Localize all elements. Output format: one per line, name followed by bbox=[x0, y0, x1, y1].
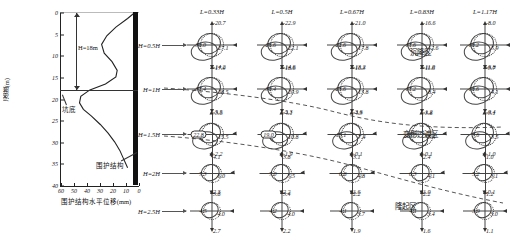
row-header-5: H=2.5H bbox=[124, 208, 160, 215]
value-right: 3.7 bbox=[357, 211, 365, 217]
value-left: 6.8 bbox=[339, 170, 347, 176]
value-top: 2.2 bbox=[283, 189, 291, 195]
tunnel-cell-r5-c1[interactable]: 2.32.74.54.0 bbox=[190, 190, 234, 232]
tunnel-cell-r2-c4[interactable]: -11.0-1.217.28.4 bbox=[397, 65, 447, 113]
value-bottom: 1.9 bbox=[353, 228, 361, 234]
value-left: 22.8 bbox=[191, 130, 207, 138]
column-header-2: L=0.5H bbox=[272, 8, 293, 15]
left-arrow-icon bbox=[300, 209, 304, 213]
value-left: 22.6 bbox=[336, 42, 347, 48]
horizontal-axis bbox=[190, 173, 235, 174]
horizontal-axis bbox=[463, 173, 508, 174]
value-right: 4.1 bbox=[491, 89, 499, 95]
column-header-4: L=0.83H bbox=[410, 8, 434, 15]
tunnel-cell-r2-c3[interactable]: -13.2-3.623.613.8 bbox=[327, 65, 377, 113]
value-right: 3.0 bbox=[490, 211, 498, 217]
y-axis-label: 深度(m) bbox=[2, 78, 12, 101]
horizontal-axis bbox=[460, 89, 510, 90]
value-left: 17.2 bbox=[406, 86, 417, 92]
value-top: -0.1 bbox=[486, 189, 496, 195]
value-bottom: 1.1 bbox=[486, 228, 494, 234]
tunnel-cell-r1-c4[interactable]: -16.6-11.617.612.6 bbox=[397, 21, 447, 69]
left-arrow-icon bbox=[303, 132, 307, 136]
value-right: 5.5 bbox=[287, 173, 295, 179]
value-left: 4.1 bbox=[409, 208, 417, 214]
horizontal-axis bbox=[400, 211, 444, 212]
x-tick-50: 50 bbox=[71, 186, 77, 194]
value-bottom: 2.7 bbox=[213, 228, 221, 234]
value-top: -0.1 bbox=[353, 151, 363, 157]
tunnel-cell-r5-c3[interactable]: 1.61.94.13.7 bbox=[330, 190, 374, 232]
tunnel-cell-r5-c2[interactable]: 2.22.24.24.0 bbox=[260, 190, 304, 232]
row-arrow-4 bbox=[162, 173, 186, 174]
left-arrow-icon bbox=[506, 87, 510, 91]
horizontal-axis bbox=[460, 45, 510, 46]
tunnel-cell-r1-c1[interactable]: -20.7-17.930.027.1 bbox=[187, 21, 237, 69]
value-left: 6.3 bbox=[409, 170, 417, 176]
value-right: 27.1 bbox=[218, 45, 229, 51]
value-right: 4.0 bbox=[287, 211, 295, 217]
value-left: 15.1 bbox=[336, 131, 347, 137]
left-arrow-icon bbox=[373, 132, 377, 136]
tunnel-cell-r2-c2[interactable]: -14.6-5.330.420.9 bbox=[257, 65, 307, 113]
left-arrow-icon bbox=[303, 43, 307, 47]
value-right: 3.5 bbox=[491, 134, 499, 140]
value-left: 4.5 bbox=[199, 208, 207, 214]
left-arrow-icon bbox=[443, 87, 447, 91]
horizontal-axis bbox=[461, 134, 510, 135]
tunnel-deformation-grid: L=0.33H L=0.5H L=0.67H L=0.83H L=1.17H H… bbox=[160, 0, 503, 244]
value-left: 3.9 bbox=[472, 208, 480, 214]
value-top: -13.2 bbox=[353, 64, 366, 70]
horizontal-axis bbox=[398, 134, 447, 135]
tunnel-cell-r2-c5[interactable]: -6.8-0.410.64.1 bbox=[460, 65, 510, 113]
value-top: -1.0 bbox=[486, 151, 496, 157]
x-tick-10: 10 bbox=[123, 186, 129, 194]
tunnel-cell-r1-c2[interactable]: -22.9-18.626.622.1 bbox=[257, 21, 307, 69]
value-left: 7.3 bbox=[199, 170, 207, 176]
x-tick-30: 30 bbox=[97, 186, 103, 194]
value-top: 1.0 bbox=[423, 189, 431, 195]
value-left: 10.6 bbox=[469, 86, 480, 92]
value-top: -8.0 bbox=[486, 20, 496, 26]
value-right: 4.1 bbox=[427, 173, 435, 179]
value-right: 20.9 bbox=[288, 89, 299, 95]
value-top: -3.6 bbox=[213, 110, 223, 116]
value-right: 3.4 bbox=[427, 211, 435, 217]
x-tick-60: 60 bbox=[58, 186, 64, 194]
left-arrow-icon bbox=[441, 171, 445, 175]
value-top: -2.2 bbox=[213, 151, 223, 157]
horizontal-axis bbox=[397, 89, 447, 90]
value-top: -4.3 bbox=[353, 110, 363, 116]
row-header-4: H=2H bbox=[124, 170, 160, 177]
left-arrow-icon bbox=[443, 132, 447, 136]
horizontal-axis bbox=[187, 45, 237, 46]
horizontal-axis bbox=[463, 211, 507, 212]
value-bottom: 2.2 bbox=[283, 228, 291, 234]
row-header-3: H=1.5H bbox=[124, 131, 160, 138]
left-arrow-icon bbox=[506, 132, 510, 136]
value-top: -14.2 bbox=[213, 64, 226, 70]
x-tick-20: 20 bbox=[110, 186, 116, 194]
left-arrow-icon bbox=[303, 87, 307, 91]
column-header-3: L=0.67H bbox=[340, 8, 364, 15]
row-arrow-1 bbox=[162, 45, 186, 46]
tunnel-cell-r5-c4[interactable]: 1.01.64.13.4 bbox=[400, 190, 444, 232]
value-left: 30.4 bbox=[266, 86, 277, 92]
horizontal-axis bbox=[397, 45, 447, 46]
horizontal-axis bbox=[260, 173, 305, 174]
tunnel-cell-r5-c5[interactable]: -0.11.13.93.0 bbox=[463, 190, 507, 232]
x-axis-label: 围护结构水平位移(mm) bbox=[36, 196, 156, 206]
horizontal-axis bbox=[260, 211, 304, 212]
value-right: 6.0 bbox=[217, 173, 225, 179]
left-arrow-icon bbox=[233, 87, 237, 91]
left-arrow-icon bbox=[230, 209, 234, 213]
left-arrow-icon bbox=[233, 132, 237, 136]
value-left: 19.0 bbox=[261, 130, 277, 138]
value-top: -20.7 bbox=[213, 20, 226, 26]
value-left: 4.1 bbox=[339, 208, 347, 214]
tunnel-cell-r1-c3[interactable]: -21.0-16.322.617.8 bbox=[327, 21, 377, 69]
horizontal-axis bbox=[187, 89, 237, 90]
tunnel-cell-r1-c5[interactable]: -8.0-3.710.25.9 bbox=[460, 21, 510, 69]
tunnel-cell-r2-c1[interactable]: -14.2-5.537.428.5 bbox=[187, 65, 237, 113]
